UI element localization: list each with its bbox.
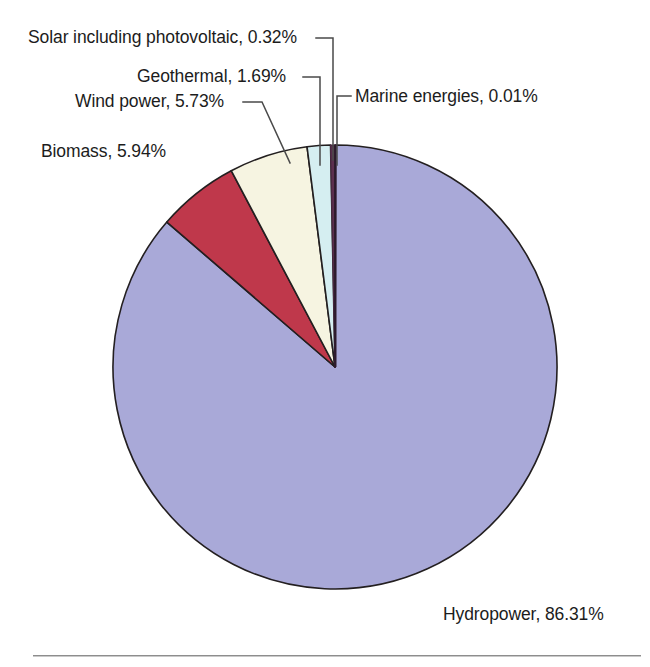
leader-line-solar — [316, 38, 333, 160]
pie-label-solar-including-photovoltaic: Solar including photovoltaic, 0.32% — [28, 29, 297, 47]
footer-divider — [33, 655, 641, 657]
pie-label-hydropower: Hydropower, 86.31% — [443, 606, 604, 624]
pie-label-biomass: Biomass, 5.94% — [41, 143, 166, 161]
pie-chart-figure: Solar including photovoltaic, 0.32% Geot… — [0, 0, 650, 667]
pie-label-wind-power: Wind power, 5.73% — [75, 93, 224, 111]
pie-label-geothermal: Geothermal, 1.69% — [137, 68, 286, 86]
pie-slices — [113, 145, 557, 589]
pie-label-marine-energies: Marine energies, 0.01% — [355, 88, 538, 106]
